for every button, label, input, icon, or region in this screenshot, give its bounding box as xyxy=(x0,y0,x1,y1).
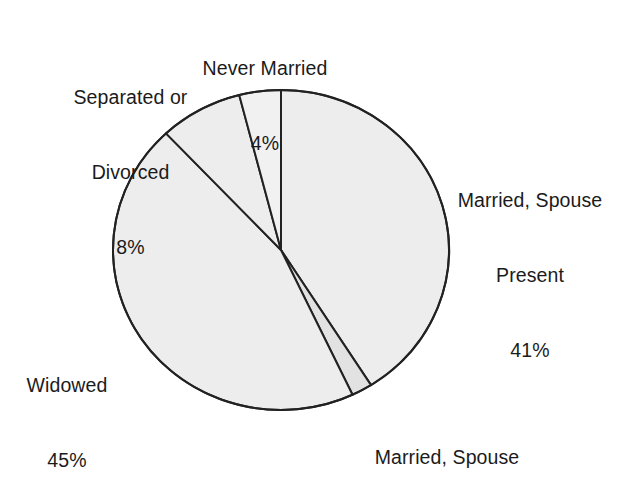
pie-label-married-spouse-present: Married, Spouse Present 41% xyxy=(436,138,624,413)
pie-label-married-spouse-present-line2: Present xyxy=(436,263,624,288)
pie-chart: Never Married 4% Separated or Divorced 8… xyxy=(0,0,630,497)
pie-label-separated-or-divorced-percent: 8% xyxy=(48,235,213,260)
pie-label-separated-or-divorced: Separated or Divorced 8% xyxy=(48,35,213,310)
pie-label-separated-or-divorced-line1: Separated or xyxy=(48,85,213,110)
pie-label-married-spouse-present-percent: 41% xyxy=(436,338,624,363)
pie-label-married-spouse-absent: Married, Spouse Absent 2% xyxy=(352,395,542,497)
pie-label-widowed-percent: 45% xyxy=(2,448,132,473)
pie-label-widowed-line1: Widowed xyxy=(2,373,132,398)
pie-label-married-spouse-present-line1: Married, Spouse xyxy=(436,188,624,213)
pie-label-married-spouse-absent-line1: Married, Spouse xyxy=(352,445,542,470)
pie-label-separated-or-divorced-line2: Divorced xyxy=(48,160,213,185)
pie-label-widowed: Widowed 45% xyxy=(2,323,132,497)
